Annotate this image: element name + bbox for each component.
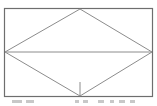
caption-fragment [110, 100, 114, 103]
rhombus-diagram [0, 0, 157, 106]
caption-fragment [130, 100, 135, 103]
caption-fragment [75, 100, 79, 103]
caption-fragment [83, 100, 88, 103]
caption-cutoff [0, 100, 157, 106]
caption-fragment [119, 100, 125, 103]
caption-fragment [12, 100, 22, 103]
caption-fragment [98, 100, 104, 103]
caption-fragment [26, 100, 34, 103]
